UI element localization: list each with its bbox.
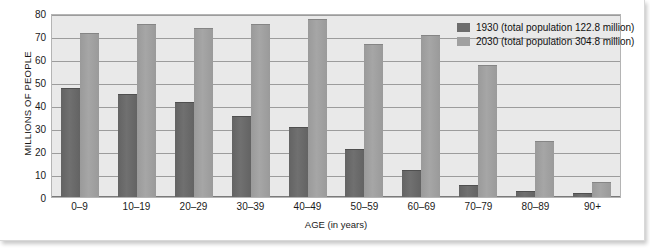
y-tick-30: 30 [20,124,46,135]
y-tick-40: 40 [20,101,46,112]
bar-1930-90+ [573,193,592,197]
y-tick-0: 0 [20,193,46,204]
bar-group [336,15,393,197]
bar-2030-50–59 [364,44,383,197]
bar-group [52,15,109,197]
x-tick-0–9: 0–9 [51,201,108,217]
bar-2030-40–49 [308,19,327,197]
chart-screenshot: MILLIONS OF PEOPLE 01020304050607080 0–9… [0,0,650,249]
legend-swatch-1930-icon [457,23,470,32]
bar-1930-50–59 [345,149,364,197]
bar-group [109,15,166,197]
bar-group [166,15,223,197]
x-tick-40–49: 40–49 [279,201,336,217]
bar-2030-20–29 [194,28,213,197]
bar-1930-60–69 [402,170,421,197]
y-tick-10: 10 [20,170,46,181]
y-axis-tick-labels: 01020304050607080 [20,14,46,198]
bar-2030-90+ [592,182,611,197]
bar-2030-0–9 [80,33,99,197]
y-tick-20: 20 [20,147,46,158]
bar-1930-0–9 [61,88,80,197]
bar-group [393,15,450,197]
bar-2030-80–89 [535,141,554,197]
bar-2030-10–19 [137,24,156,198]
y-tick-70: 70 [20,32,46,43]
bar-1930-40–49 [289,127,308,197]
bar-group [222,15,279,197]
y-tick-80: 80 [20,9,46,20]
legend-swatch-2030-icon [457,37,470,46]
x-axis-tick-labels: 0–910–1920–2930–3940–4950–5960–6970–7980… [51,201,621,217]
x-tick-90+: 90+ [564,201,621,217]
y-tick-60: 60 [20,55,46,66]
bar-2030-60–69 [421,35,440,197]
bar-1930-30–39 [232,116,251,198]
x-tick-50–59: 50–59 [336,201,393,217]
x-tick-60–69: 60–69 [393,201,450,217]
x-tick-80–89: 80–89 [507,201,564,217]
chart-legend: 1930 (total population 122.8 million) 20… [455,20,636,50]
x-axis-title: AGE (in years) [51,219,621,230]
bar-group [279,15,336,197]
y-tick-50: 50 [20,78,46,89]
legend-label-1930: 1930 (total population 122.8 million) [476,22,634,33]
bar-2030-70–79 [478,65,497,197]
legend-item-2030: 2030 (total population 304.8 million) [457,35,634,48]
bar-1930-80–89 [516,191,535,197]
bar-1930-20–29 [175,102,194,197]
bar-1930-10–19 [118,94,137,197]
x-tick-70–79: 70–79 [450,201,507,217]
legend-item-1930: 1930 (total population 122.8 million) [457,21,634,34]
bar-1930-70–79 [459,185,478,198]
x-tick-10–19: 10–19 [108,201,165,217]
bar-2030-30–39 [251,24,270,198]
x-tick-20–29: 20–29 [165,201,222,217]
legend-label-2030: 2030 (total population 304.8 million) [476,36,634,47]
x-tick-30–39: 30–39 [222,201,279,217]
